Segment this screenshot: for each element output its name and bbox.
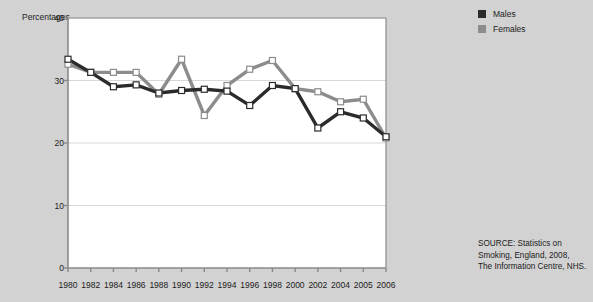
data-point-marker [110, 69, 116, 75]
data-point-marker [360, 96, 366, 102]
data-point-marker [338, 109, 344, 115]
data-point-marker [110, 84, 116, 90]
legend-label: Females [493, 24, 526, 34]
data-point-marker [224, 88, 230, 94]
data-point-marker [133, 82, 139, 88]
data-point-marker [360, 115, 366, 121]
legend-swatch-icon [478, 10, 486, 18]
source-note: SOURCE: Statistics on Smoking, England, … [478, 238, 590, 273]
data-point-marker [247, 66, 253, 72]
legend-swatch-icon [478, 25, 486, 33]
data-point-marker [383, 134, 389, 140]
data-point-marker [179, 88, 185, 94]
smoking-prevalence-chart: Percentages 010203040 198019821984198619… [0, 0, 593, 302]
data-point-marker [156, 90, 162, 96]
source-line-2: Smoking, England, 2008, [478, 250, 590, 262]
data-point-marker [88, 69, 94, 75]
source-line-3: The Information Centre, NHS. [478, 261, 590, 273]
source-line-1: SOURCE: Statistics on [478, 238, 590, 250]
data-point-marker [315, 125, 321, 131]
data-point-marker [269, 58, 275, 64]
data-point-marker [201, 86, 207, 92]
legend-item-females: Females [478, 24, 526, 34]
chart-legend: MalesFemales [478, 9, 526, 39]
data-point-marker [201, 113, 207, 119]
data-point-marker [338, 99, 344, 105]
data-point-marker [65, 56, 71, 62]
data-point-marker [133, 69, 139, 75]
legend-item-males: Males [478, 9, 526, 19]
legend-label: Males [493, 9, 516, 19]
data-point-marker [315, 89, 321, 95]
data-point-marker [292, 86, 298, 92]
data-point-marker [179, 56, 185, 62]
data-point-marker [269, 83, 275, 89]
data-point-marker [247, 103, 253, 109]
